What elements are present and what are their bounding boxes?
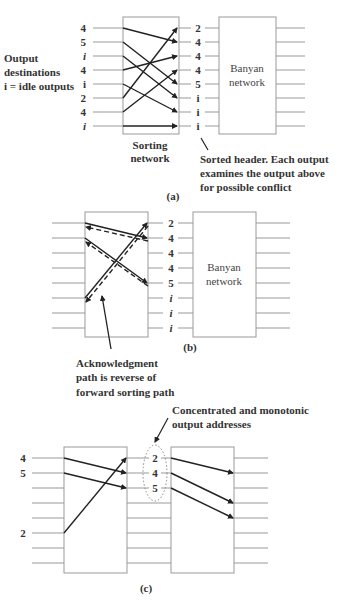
- input-label: 4: [81, 106, 87, 118]
- input-label: 2: [81, 92, 87, 104]
- output-label: 2: [168, 217, 174, 229]
- panel-b: 24445iii Banyan network (b) Acknowledgme…: [52, 212, 290, 398]
- side-label-line-1: Output: [4, 52, 39, 64]
- note-pointer-arrow: [155, 418, 168, 442]
- banyan-label-line-2: network: [206, 275, 243, 287]
- sorted-header-label: 4: [195, 64, 201, 76]
- sorted-header-labels: 24445iii: [195, 22, 201, 132]
- input-labels: 45i4i24i: [81, 22, 87, 132]
- banyan-output-wires: [276, 28, 305, 126]
- banyan-label-line-1: Banyan: [230, 62, 264, 74]
- sorted-header-label: 5: [195, 78, 201, 90]
- banyan-label-line-1: Banyan: [207, 261, 241, 273]
- side-label-line-2: destinations: [4, 66, 61, 78]
- side-label-line-3: i = idle outputs: [4, 80, 75, 92]
- note-line-1: Acknowledgment: [76, 357, 158, 369]
- concentrated-label: 4: [152, 467, 158, 479]
- output-label: 5: [168, 277, 174, 289]
- sorted-header-label: 4: [195, 36, 201, 48]
- input-wires: [52, 223, 85, 328]
- input-wires: [32, 458, 64, 563]
- banyan-sorting-figure: Output destinations i = idle outputs 45i…: [0, 0, 343, 601]
- panel-c: Concentrated and monotonic output addres…: [20, 404, 309, 595]
- sorted-header-label: i: [196, 106, 199, 118]
- banyan-output-wires: [234, 458, 268, 563]
- sorting-label-line-2: network: [130, 152, 170, 164]
- caption-a: (a): [167, 190, 180, 203]
- input-label: i: [83, 78, 86, 90]
- input-wires: [93, 28, 123, 126]
- input-labels: 452: [20, 452, 26, 539]
- caption-c: (c): [140, 582, 153, 595]
- input-label: 4: [81, 22, 87, 34]
- output-label: i: [169, 322, 173, 334]
- note-line-3: for possible conflict: [200, 181, 292, 193]
- output-label: 4: [168, 232, 174, 244]
- concentrated-labels: 245: [149, 452, 161, 494]
- note-line-2: examines the output above: [200, 167, 325, 179]
- sorted-header-label: 2: [195, 22, 201, 34]
- caption-b: (b): [183, 341, 197, 354]
- output-label: 4: [168, 262, 174, 274]
- input-label: 5: [20, 467, 26, 479]
- concentrated-label: 2: [152, 452, 158, 464]
- input-label: 4: [81, 64, 87, 76]
- banyan-output-wires: [256, 223, 290, 328]
- input-label: i: [83, 120, 87, 132]
- sorted-header-label: i: [196, 120, 199, 132]
- output-label: i: [169, 292, 173, 304]
- note-line-1: Concentrated and monotonic: [172, 404, 309, 416]
- note-line-3: forward sorting path: [76, 386, 174, 398]
- sorting-label-line-1: Sorting: [133, 139, 168, 151]
- input-label: i: [83, 50, 87, 62]
- input-label: 5: [81, 36, 87, 48]
- sorted-header-label: 4: [195, 50, 201, 62]
- input-label: 2: [20, 527, 26, 539]
- output-labels: 24445iii: [168, 217, 174, 334]
- input-label: 4: [20, 452, 26, 464]
- sorted-header-label: i: [196, 92, 199, 104]
- note-pointer-arrow: [201, 138, 208, 150]
- panel-a: Output destinations i = idle outputs 45i…: [4, 17, 329, 203]
- note-line-1: Sorted header. Each output: [200, 153, 329, 165]
- output-label: i: [169, 307, 173, 319]
- note-line-2: path is reverse of: [76, 371, 156, 383]
- note-line-2: output addresses: [172, 418, 252, 430]
- output-label: 4: [168, 247, 174, 259]
- banyan-label-line-2: network: [229, 76, 266, 88]
- concentrated-label: 5: [152, 482, 158, 494]
